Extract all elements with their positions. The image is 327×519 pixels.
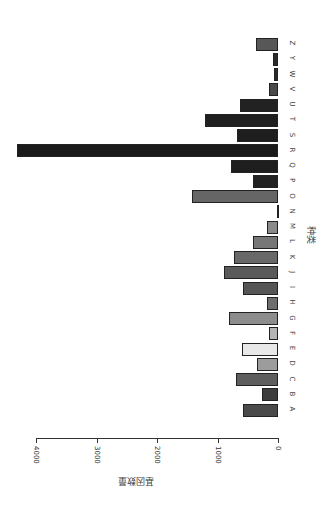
category-label: B — [288, 389, 296, 399]
category-label: F — [288, 328, 296, 338]
x-axis-label: 种类 — [305, 226, 318, 244]
category-label: N — [288, 206, 296, 216]
bar-R — [17, 144, 278, 157]
bar-J — [224, 266, 278, 279]
bar-B — [262, 388, 278, 401]
bar-P — [253, 175, 278, 188]
bar-O — [192, 190, 278, 203]
tick-mark — [97, 438, 98, 443]
bar-Q — [231, 160, 278, 173]
category-label: L — [288, 236, 296, 246]
bar-Y — [273, 53, 278, 66]
tick-label: 1000 — [214, 446, 222, 464]
category-label: V — [288, 84, 296, 94]
category-label: K — [288, 252, 296, 262]
category-label: G — [288, 313, 296, 323]
category-label: H — [288, 297, 296, 307]
bar-L — [253, 236, 278, 249]
bar-K — [234, 251, 278, 264]
bar-H — [267, 297, 278, 310]
bar-U — [240, 99, 278, 112]
bar-Z — [256, 38, 278, 51]
category-label: R — [288, 145, 296, 155]
category-label: I — [288, 282, 296, 292]
category-label: A — [288, 404, 296, 414]
category-label: Y — [288, 53, 296, 63]
tick-label: 4000 — [32, 446, 40, 464]
category-label: J — [288, 267, 296, 277]
tick-mark — [36, 438, 37, 443]
category-label: Q — [288, 160, 296, 170]
bar-W — [274, 68, 278, 81]
bar-A — [243, 404, 278, 417]
tick-mark — [218, 438, 219, 443]
category-label: O — [288, 191, 296, 201]
bar-T — [205, 114, 278, 127]
category-label: W — [288, 69, 296, 79]
tick-label: 0 — [274, 446, 282, 450]
y-axis-label: 基因数量 — [118, 475, 154, 488]
tick-label: 2000 — [153, 446, 161, 464]
bar-V — [269, 83, 278, 96]
category-label: P — [288, 175, 296, 185]
bar-E — [242, 343, 278, 356]
category-label: S — [288, 130, 296, 140]
bar-M — [267, 221, 278, 234]
tick-label: 3000 — [93, 446, 101, 464]
category-label: T — [288, 114, 296, 124]
tick-mark — [278, 438, 279, 443]
category-label: C — [288, 374, 296, 384]
bar-C — [236, 373, 278, 386]
bar-G — [229, 312, 278, 325]
category-label: D — [288, 358, 296, 368]
tick-mark — [157, 438, 158, 443]
bar-N — [277, 205, 279, 218]
category-label: E — [288, 343, 296, 353]
category-label: Z — [288, 38, 296, 48]
category-label: M — [288, 221, 296, 231]
category-label: U — [288, 99, 296, 109]
bar-D — [257, 358, 278, 371]
bar-S — [237, 129, 278, 142]
bar-I — [243, 282, 278, 295]
bar-F — [269, 327, 278, 340]
bar-chart: 01000200030004000 ABCDEFGHIJKLMNOPQRSTUV… — [0, 0, 327, 519]
